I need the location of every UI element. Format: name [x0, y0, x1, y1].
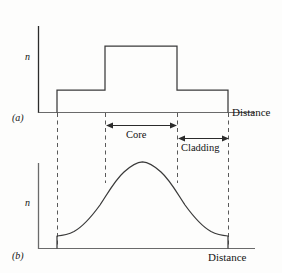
- core-dimension-arrow: [106, 123, 177, 129]
- panel-b-graded-index: [39, 162, 256, 249]
- step-index-curve: [57, 46, 228, 113]
- cladding-arrow-head-left: [178, 136, 185, 142]
- panel-a-step-index: [39, 26, 256, 113]
- panel-a-x-axis-label: Distance: [232, 107, 270, 118]
- cladding-label: Cladding: [181, 143, 220, 154]
- figure-container: n (a) Distance Core Cladding n (b) Dista…: [0, 0, 282, 273]
- core-arrow-head-left: [106, 123, 113, 129]
- cladding-dimension-arrow: [178, 136, 229, 142]
- panel-b-tag: (b): [12, 251, 24, 261]
- panel-a-y-axis-label: n: [25, 52, 30, 62]
- core-label: Core: [126, 130, 146, 141]
- cladding-arrow-head-right: [222, 136, 229, 142]
- panel-b-y-axis-label: n: [25, 198, 30, 208]
- panel-a-tag: (a): [12, 113, 24, 123]
- graded-index-curve: [57, 162, 228, 249]
- panel-b-x-axis-label: Distance: [208, 252, 246, 263]
- core-arrow-head-right: [170, 123, 177, 129]
